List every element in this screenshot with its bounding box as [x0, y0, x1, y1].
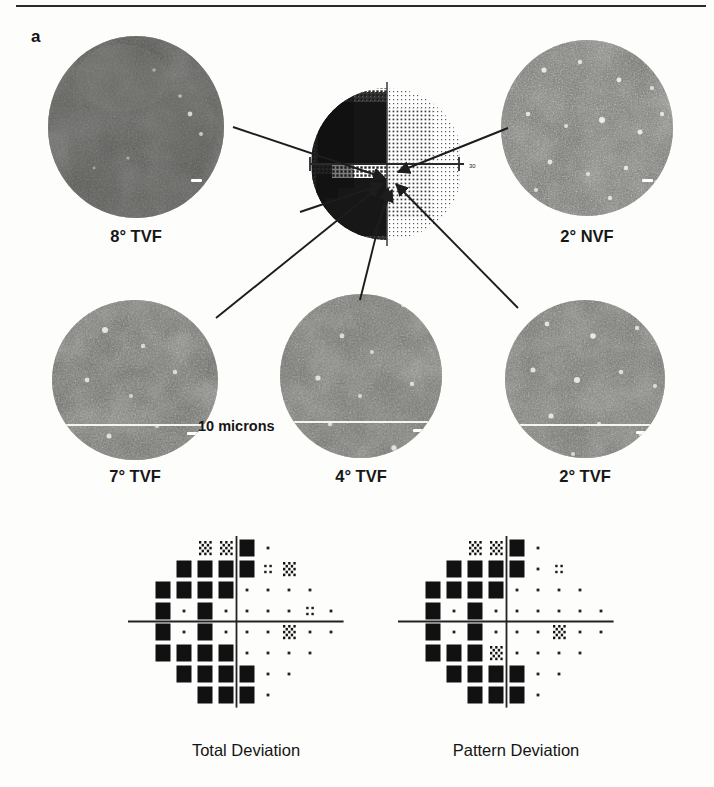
pattern-deviation-cell [579, 631, 582, 634]
symbol-black-square [468, 645, 483, 662]
symbol-dot [183, 631, 186, 634]
total-deviation-cell [183, 631, 186, 634]
grayscale-visual-field-plot: 30 [292, 78, 482, 253]
symbol-hatch [490, 541, 503, 555]
total-deviation-cell [330, 610, 333, 613]
panel-letter: a [31, 27, 40, 47]
total-deviation-cell [246, 652, 249, 655]
total-deviation-cell [198, 645, 213, 662]
symbol-black-square [489, 582, 504, 599]
symbol-dot [288, 610, 291, 613]
pattern-deviation-cell [537, 589, 540, 592]
symbol-dot [330, 631, 333, 634]
micrograph-texture [48, 36, 224, 218]
symbol-dot [267, 673, 270, 676]
symbol-dot [579, 631, 582, 634]
total-deviation-cell [156, 624, 171, 641]
pattern-deviation-cell [555, 565, 563, 573]
pattern-deviation-cell [600, 631, 603, 634]
pattern-deviation-cell [490, 646, 503, 660]
pattern-deviation-cell [495, 631, 498, 634]
total-deviation-cell [246, 589, 249, 592]
total-deviation-cell [199, 541, 212, 555]
total-deviation-cell [264, 565, 272, 573]
symbol-black-square [240, 687, 255, 704]
symbol-hatch [553, 625, 566, 639]
symbol-dot [558, 652, 561, 655]
symbol-dot [267, 631, 270, 634]
pattern-deviation-cell [558, 673, 561, 676]
symbol-dot [516, 652, 519, 655]
symbol-dot [516, 631, 519, 634]
pattern-deviation-cell [468, 624, 483, 641]
total-deviation-cell [183, 610, 186, 613]
pattern-deviation-cell [516, 589, 519, 592]
pattern-deviation-cell [510, 666, 525, 683]
symbol-black-square [426, 645, 441, 662]
symbol-black-square [198, 624, 213, 641]
symbol-dot [537, 673, 540, 676]
symbol-dot [579, 589, 582, 592]
symbol-black-square [468, 624, 483, 641]
micrograph-7-tvf [52, 300, 218, 460]
figure-caption-clipped [0, 779, 714, 787]
symbol-black-square [447, 582, 462, 599]
scale-line [280, 421, 442, 423]
symbol-black-square [219, 561, 234, 578]
scale-bar [413, 429, 424, 432]
symbol-black-square [198, 603, 213, 620]
total-deviation-cell [198, 582, 213, 599]
symbol-dot [537, 547, 540, 550]
total-deviation-cell [267, 610, 270, 613]
micrograph-label-7-tvf: 7° TVF [52, 467, 218, 486]
symbol-black-square [177, 645, 192, 662]
symbol-dot [309, 589, 312, 592]
symbol-black-square [510, 540, 525, 557]
pattern-deviation-label: Pattern Deviation [398, 741, 634, 760]
symbol-hatch [220, 541, 233, 555]
symbol-black-square [198, 687, 213, 704]
symbol-dot [537, 652, 540, 655]
symbol-dot [558, 673, 561, 676]
total-deviation-cell [198, 603, 213, 620]
pattern-deviation-cell [447, 561, 462, 578]
pattern-deviation-cell [579, 589, 582, 592]
symbol-black-square [426, 603, 441, 620]
symbol-black-square [510, 666, 525, 683]
pattern-deviation-cell [516, 610, 519, 613]
total-deviation-cell [156, 603, 171, 620]
vf-axis-label-right: 30 [469, 163, 476, 169]
pattern-deviation-cell [537, 673, 540, 676]
symbol-black-square [240, 666, 255, 683]
total-deviation-cell [246, 610, 249, 613]
symbol-black-square [219, 666, 234, 683]
pattern-deviation-cell [468, 603, 483, 620]
symbol-black-square [219, 687, 234, 704]
symbol-dot [225, 631, 228, 634]
symbol-hatch [490, 646, 503, 660]
micrograph-texture [501, 40, 673, 216]
symbol-quad-dots [264, 565, 272, 573]
symbol-black-square [198, 582, 213, 599]
symbol-dot [267, 589, 270, 592]
symbol-black-square [426, 624, 441, 641]
symbol-dot [558, 589, 561, 592]
scale-line [52, 424, 218, 426]
pattern-deviation-cell [510, 687, 525, 704]
symbol-dot [267, 547, 270, 550]
symbol-black-square [240, 540, 255, 557]
total-deviation-cell [177, 645, 192, 662]
micrograph-8-tvf [48, 36, 224, 218]
pattern-deviation-cell [469, 541, 482, 555]
total-deviation-cell [288, 589, 291, 592]
symbol-black-square [510, 561, 525, 578]
symbol-black-square [156, 624, 171, 641]
symbol-black-square [489, 687, 504, 704]
symbol-dot [246, 652, 249, 655]
symbol-black-square [510, 687, 525, 704]
symbol-dot [516, 610, 519, 613]
symbol-black-square [177, 666, 192, 683]
symbol-black-square [198, 666, 213, 683]
symbol-hatch [283, 562, 296, 576]
micrograph-label-8-tvf: 8° TVF [48, 227, 224, 246]
